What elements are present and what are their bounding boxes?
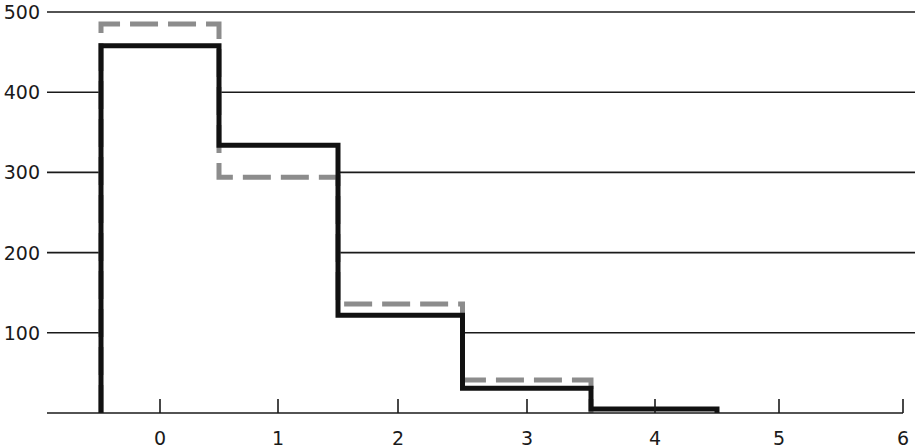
y-tick-label: 200 [4,242,40,264]
chart-canvas: 0123456 100200300400500 [0,0,915,448]
step-histogram-chart: 0123456 100200300400500 [0,0,915,448]
y-tick-label: 300 [4,161,40,183]
x-tick-label: 5 [773,427,785,448]
x-tick-label: 2 [392,427,404,448]
bar-fills [99,21,719,413]
x-tick-label: 0 [154,427,166,448]
x-tick-label: 4 [649,427,661,448]
x-tick-label: 1 [272,427,284,448]
y-tick-label: 500 [4,1,40,23]
y-axis: 100200300400500 [4,1,40,344]
bar-fill [217,142,340,413]
y-tick-label: 100 [4,322,40,344]
y-tick-label: 400 [4,81,40,103]
bar-fill [99,21,221,413]
bar-fill [336,301,465,413]
x-tick-label: 3 [521,427,533,448]
x-tick-label: 6 [897,427,909,448]
